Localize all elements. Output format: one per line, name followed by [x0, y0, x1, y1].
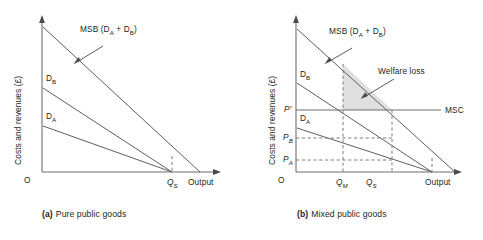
panel-b-pa-label: PA [283, 155, 293, 163]
panel-b-db-label-sub: B [306, 74, 310, 81]
panel-a-msb-label-mid: + D [114, 24, 130, 34]
panel-a-db-label-sub: B [52, 78, 56, 85]
panel-b-pprime-label-main: P′ [284, 104, 291, 114]
panel-b-da-curve [297, 128, 432, 172]
panel-b-msb-label: MSB (DA + DB) [329, 27, 386, 35]
panel-a-x-axis-label: Output [188, 178, 214, 186]
panel-b-x-axis-label: Output [425, 178, 451, 186]
panel-a-msb-label-end: ) [134, 24, 137, 34]
panel-a-y-axis-title: Costs and revenues (£) [13, 76, 23, 165]
panel-a-caption: (a)Pure public goods [42, 209, 126, 219]
panel-a-da-label: DA [46, 112, 56, 120]
panel-b-x-axis-arrowhead [454, 169, 462, 175]
panel-b-pprime-label: P′ [284, 105, 291, 113]
panel-b-msb-curve [297, 29, 455, 172]
panel-a-da-curve [43, 126, 172, 172]
figure-root: Costs and revenues (£) O MSB (DA + DB) D… [0, 0, 483, 240]
panel-b-welfare-loss-label: Welfare loss [378, 67, 425, 75]
panel-a-y-axis-arrowhead [39, 15, 45, 23]
panel-a-da-label-sub: A [52, 116, 56, 123]
panel-b-msb-leader-arrowhead [325, 57, 332, 64]
panel-a-msb-label: MSB (DA + DB) [80, 25, 137, 33]
panel-b-pb-label: PB [283, 133, 293, 141]
panel-b-pa-label-sub: A [289, 159, 293, 166]
panel-b-qm-label-sub: M [343, 182, 348, 189]
panel-b-msb-label-main: MSB (D [329, 26, 359, 36]
panel-b-qs-label-sub: S [373, 182, 377, 189]
panel-b-msb-label-mid: + D [363, 26, 379, 36]
panel-a-origin-label: O [24, 176, 31, 184]
panel-b-y-axis-title: Costs and revenues (£) [267, 76, 277, 165]
panel-a-graph [39, 15, 221, 175]
panel-a-qs-label: QS [167, 178, 178, 186]
panel-b-pb-label-sub: B [289, 137, 293, 144]
panel-b-caption: (b)Mixed public goods [297, 209, 387, 219]
panel-a-db-curve [43, 88, 172, 172]
panel-b-msc-label: MSC [445, 106, 464, 114]
panel-a-msb-label-main: MSB (D [80, 24, 110, 34]
panel-b-da-label: DA [300, 114, 310, 122]
panel-a-msb-leader [77, 46, 103, 62]
panel-a-qs-label-sub: S [174, 182, 178, 189]
panel-b-msb-leader [328, 48, 352, 62]
panel-b-caption-text: Mixed public goods [311, 209, 386, 219]
panel-b-origin-label: O [278, 176, 285, 184]
panel-b-y-axis-arrowhead [293, 15, 299, 23]
panel-a-x-axis-arrowhead [213, 169, 221, 175]
panel-b-qm-label: QM [336, 178, 348, 186]
panel-a-db-label: DB [46, 74, 56, 82]
panel-b-msb-label-end: ) [383, 26, 386, 36]
panel-b-db-label: DB [300, 70, 310, 78]
panel-b-da-label-sub: A [306, 118, 310, 125]
panel-b-qs-label: QS [366, 178, 377, 186]
panel-a-caption-text: Pure public goods [56, 209, 127, 219]
panel-b-caption-tag: (b) [297, 209, 308, 219]
panel-a-caption-tag: (a) [42, 209, 53, 219]
panel-a-msb-curve [43, 27, 200, 172]
figure-canvas [0, 0, 483, 240]
panel-b-graph [293, 15, 462, 175]
